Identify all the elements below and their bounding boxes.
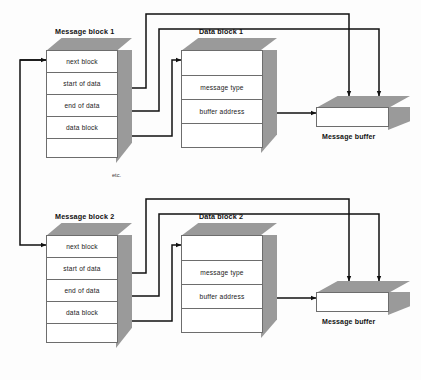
message-block-2-title: Message block 2 xyxy=(55,212,114,221)
data-block-1-row-message-type: message type xyxy=(182,76,262,100)
message-block-1-row-next-block: next block xyxy=(47,51,117,73)
data-block-1-front-face: message type buffer address xyxy=(181,50,263,148)
message-block-1-front-face: next block start of data end of data dat… xyxy=(46,50,118,158)
data-block-1-row-empty-top xyxy=(182,51,262,76)
data-block-2-row-buffer-address: buffer address xyxy=(182,285,262,309)
data-block-1-title: Data block 1 xyxy=(199,27,243,36)
message-block-2-row-data-block: data block xyxy=(47,302,117,324)
message-buffer-1-side-face xyxy=(388,107,410,130)
message-block-1: next block start of data end of data dat… xyxy=(46,38,132,163)
message-block-2: next block start of data end of data dat… xyxy=(46,223,132,348)
message-block-1-side-face xyxy=(116,50,132,163)
data-block-2-side-face xyxy=(261,235,277,338)
data-block-2-row-empty-top xyxy=(182,236,262,261)
message-buffer-2-front-face xyxy=(316,292,389,312)
message-block-1-row-data-block: data block xyxy=(47,117,117,139)
data-block-2: message type buffer address xyxy=(181,223,277,338)
message-block-2-row-next-block: next block xyxy=(47,236,117,258)
message-block-2-row-start-of-data: start of data xyxy=(47,258,117,280)
message-block-1-title: Message block 1 xyxy=(55,27,114,36)
data-block-1-row-buffer-address: buffer address xyxy=(182,100,262,124)
data-block-1-side-face xyxy=(261,50,277,153)
data-block-2-row-message-type: message type xyxy=(182,261,262,285)
message-block-1-row-end-of-data: end of data xyxy=(47,95,117,117)
message-buffer-1-label: Message buffer xyxy=(322,133,375,140)
data-block-2-row-empty-bottom xyxy=(182,309,262,334)
message-buffer-1-front-face xyxy=(316,107,389,127)
data-block-2-title: Data block 2 xyxy=(199,212,243,221)
data-block-2-front-face: message type buffer address xyxy=(181,235,263,333)
data-block-1: message type buffer address xyxy=(181,38,277,153)
message-block-1-row-start-of-data: start of data xyxy=(47,73,117,95)
message-buffer-2-side-face xyxy=(388,292,410,315)
message-block-1-row-empty xyxy=(47,139,117,158)
message-buffer-1 xyxy=(316,96,410,130)
message-buffer-2 xyxy=(316,281,410,315)
diagram-canvas: Message block 1 next block start of data… xyxy=(0,0,421,380)
data-block-1-row-empty-bottom xyxy=(182,124,262,149)
message-buffer-2-label: Message buffer xyxy=(322,318,375,325)
message-block-2-row-end-of-data: end of data xyxy=(47,280,117,302)
message-block-2-row-empty xyxy=(47,324,117,343)
etc-note: etc. xyxy=(112,172,121,178)
message-block-2-front-face: next block start of data end of data dat… xyxy=(46,235,118,343)
message-block-2-side-face xyxy=(116,235,132,348)
wire-next-block-chain-lower xyxy=(20,60,46,245)
